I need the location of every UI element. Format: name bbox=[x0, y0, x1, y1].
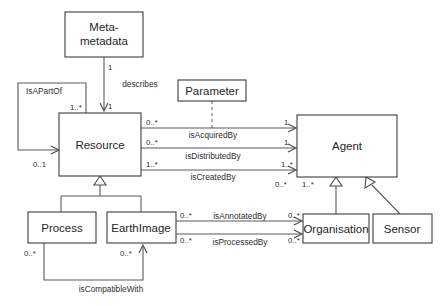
multiplicity-iscreatedby-target: 1..* bbox=[281, 160, 293, 169]
multiplicity-isprocessedby-source: 0..* bbox=[180, 236, 192, 245]
class-box-agent[interactable]: Agent bbox=[297, 115, 397, 177]
multiplicity-iscreatedby-source: 1..* bbox=[146, 160, 158, 169]
class-name-resource: Resource bbox=[75, 139, 124, 151]
multiplicity-isacquiredby-source: 0..* bbox=[146, 118, 158, 127]
multiplicity-isprocessedby-target: 0..* bbox=[288, 236, 300, 245]
class-name-process: Process bbox=[41, 222, 83, 234]
assoc-label-iscreatedby: isCreatedBy bbox=[190, 172, 236, 182]
assoc-label-isacquiredby: isAcquiredBy bbox=[189, 130, 238, 140]
multiplicity-isacquiredby-target: 1 bbox=[284, 118, 288, 127]
class-box-parameter[interactable]: Parameter bbox=[178, 80, 246, 101]
class-box-organisation[interactable]: Organisation bbox=[303, 214, 369, 243]
multiplicity-isdistributedby-target: 1 bbox=[284, 138, 288, 147]
uml-class-diagram: Meta- metadata Parameter Resource Agent … bbox=[0, 0, 446, 306]
class-name-agent: Agent bbox=[332, 140, 363, 152]
multiplicity-describes-target: 1 bbox=[108, 102, 112, 111]
class-box-sensor[interactable]: Sensor bbox=[373, 214, 432, 243]
assoc-label-isprocessedby: isProcessedBy bbox=[213, 237, 269, 247]
class-box-meta-metadata[interactable]: Meta- metadata bbox=[65, 12, 143, 57]
class-name-sensor: Sensor bbox=[384, 223, 421, 235]
class-name-earthimage: EarthImage bbox=[111, 222, 170, 234]
class-box-process[interactable]: Process bbox=[28, 212, 96, 243]
class-name-meta-metadata-line2: metadata bbox=[80, 35, 129, 47]
class-name-meta-metadata-line1: Meta- bbox=[89, 21, 119, 33]
multiplicity-agent-bottom-right: 1..* bbox=[302, 180, 314, 189]
multiplicity-isapartof-source: 1..* bbox=[70, 103, 82, 112]
class-name-parameter: Parameter bbox=[185, 85, 239, 97]
multiplicity-isdistributedby-source: 0..* bbox=[146, 138, 158, 147]
assoc-label-isannotatedby: isAnnotatedBy bbox=[213, 211, 267, 221]
multiplicity-describes-source: 1 bbox=[108, 63, 112, 72]
multiplicity-iscompatiblewith-target: 0..* bbox=[120, 249, 132, 258]
multiplicity-isannotatedby-source: 0..* bbox=[180, 211, 192, 220]
generalization-to-resource bbox=[61, 176, 141, 212]
assoc-label-isapartof: IsAPartOf bbox=[26, 86, 63, 96]
generalization-organisation-to-agent bbox=[330, 177, 342, 214]
multiplicity-isannotatedby-target: 0..* bbox=[288, 211, 300, 220]
association-describes bbox=[100, 57, 108, 111]
assoc-label-iscompatiblewith: isCompatibleWith bbox=[79, 284, 144, 294]
uml-diagram-canvas: Meta- metadata Parameter Resource Agent … bbox=[0, 0, 446, 306]
multiplicity-isapartof-target: 0..1 bbox=[33, 160, 46, 169]
multiplicity-agent-bottom-left: 0..* bbox=[275, 180, 287, 189]
class-box-resource[interactable]: Resource bbox=[59, 113, 141, 176]
assoc-label-isdistributedby: isDistributedBy bbox=[185, 151, 241, 161]
class-name-organisation: Organisation bbox=[303, 223, 368, 235]
assoc-label-describes: describes bbox=[122, 79, 158, 89]
generalization-sensor-to-agent bbox=[365, 177, 400, 214]
multiplicity-iscompatiblewith-source: 0..* bbox=[24, 249, 36, 258]
class-box-earthimage[interactable]: EarthImage bbox=[107, 212, 176, 243]
